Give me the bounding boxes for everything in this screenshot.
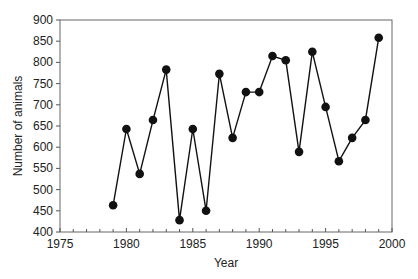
y-tick-label: 600 <box>33 140 53 154</box>
data-point-marker <box>109 201 118 210</box>
x-tick-label: 1990 <box>246 237 273 251</box>
data-point-marker <box>281 56 290 65</box>
y-tick-label: 900 <box>33 13 53 27</box>
y-tick-label: 500 <box>33 183 53 197</box>
y-tick-label: 750 <box>33 77 53 91</box>
data-point-marker <box>255 88 264 97</box>
data-point-marker <box>321 103 330 112</box>
data-point-marker <box>149 116 158 125</box>
y-tick-label: 700 <box>33 98 53 112</box>
x-axis-title: Year <box>214 256 238 270</box>
y-axis: 400450500550600650700750800850900 <box>33 13 60 239</box>
data-point-marker <box>295 148 304 157</box>
plot-border <box>60 20 392 232</box>
series-line <box>113 38 379 220</box>
y-tick-label: 450 <box>33 204 53 218</box>
y-tick-label: 650 <box>33 119 53 133</box>
line-chart: 400450500550600650700750800850900 197519… <box>0 0 418 279</box>
y-tick-label: 800 <box>33 55 53 69</box>
data-point-marker <box>308 48 317 57</box>
data-point-marker <box>202 207 211 216</box>
x-tick-label: 1985 <box>179 237 206 251</box>
x-tick-label: 1995 <box>312 237 339 251</box>
data-point-marker <box>189 125 198 134</box>
data-point-marker <box>242 88 251 97</box>
data-point-marker <box>122 125 131 134</box>
data-point-marker <box>175 216 184 225</box>
data-point-marker <box>228 134 237 143</box>
x-axis: 197519801985199019952000 <box>47 228 406 251</box>
x-tick-label: 1975 <box>47 237 74 251</box>
data-point-marker <box>361 116 370 125</box>
y-tick-label: 550 <box>33 161 53 175</box>
data-point-marker <box>268 52 277 61</box>
data-point-marker <box>215 70 224 79</box>
x-tick-label: 2000 <box>379 237 406 251</box>
data-point-marker <box>335 157 344 166</box>
data-point-marker <box>348 134 357 143</box>
data-point-marker <box>162 65 171 74</box>
data-point-marker <box>374 34 383 43</box>
y-tick-label: 850 <box>33 34 53 48</box>
data-series <box>109 34 383 225</box>
x-tick-label: 1980 <box>113 237 140 251</box>
y-axis-title: Number of animals <box>11 76 25 177</box>
data-point-marker <box>135 170 144 179</box>
plot-frame <box>60 20 392 232</box>
